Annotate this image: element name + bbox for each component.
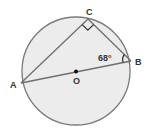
center-dot xyxy=(74,70,78,74)
label-B: B xyxy=(135,57,142,67)
geometry-figure: C B A O 68° xyxy=(0,0,148,131)
angle-label-B: 68° xyxy=(98,53,112,63)
label-O: O xyxy=(73,76,80,86)
label-A: A xyxy=(10,80,17,90)
label-C: C xyxy=(86,7,93,17)
